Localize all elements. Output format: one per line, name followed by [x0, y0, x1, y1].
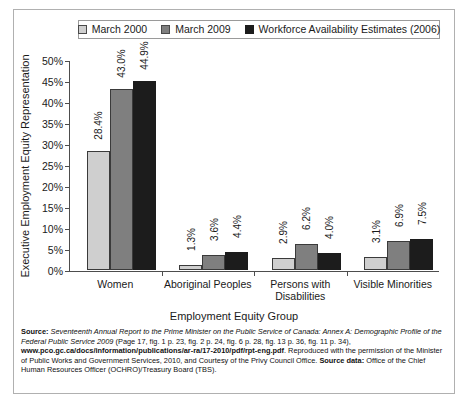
- x-category-label: Persons with Disabilities: [254, 278, 347, 302]
- bar[interactable]: [202, 255, 225, 270]
- bar[interactable]: [133, 81, 156, 270]
- bar-group: 3.1%6.9%7.5%: [364, 60, 433, 270]
- x-tick-mark: [162, 271, 163, 276]
- bar-item: 6.2%: [295, 60, 318, 270]
- y-tick-mark: [65, 82, 69, 83]
- bar[interactable]: [295, 244, 318, 270]
- bar-group: 1.3%3.6%4.4%: [179, 60, 248, 270]
- bar[interactable]: [110, 89, 133, 270]
- source-pages: (Page 17, fig. 1 p. 23, fig. 2 p. 24, fi…: [113, 337, 350, 346]
- legend-label: March 2000: [92, 24, 147, 35]
- bar[interactable]: [272, 258, 295, 270]
- y-tick-mark: [65, 250, 69, 251]
- bar-item: 44.9%: [133, 60, 156, 270]
- bar-item: 43.0%: [110, 60, 133, 270]
- source-url[interactable]: www.pco.gc.ca/docs/information/publicati…: [21, 346, 284, 355]
- legend-item-march-2009: March 2009: [161, 24, 230, 35]
- y-axis-title: Executive Employment Equity Representati…: [18, 61, 32, 271]
- legend-swatch-icon: [78, 25, 87, 34]
- x-tick-mark: [254, 271, 255, 276]
- bar-group: 2.9%6.2%4.0%: [272, 60, 341, 270]
- bar[interactable]: [179, 265, 202, 270]
- y-tick-label: 20%: [42, 181, 63, 193]
- bar[interactable]: [364, 257, 387, 270]
- bar-item: 28.4%: [87, 60, 110, 270]
- y-tick-label: 10%: [42, 223, 63, 235]
- bar-item: 4.4%: [225, 60, 248, 270]
- y-tick-mark: [65, 145, 69, 146]
- y-tick-label: 40%: [42, 97, 63, 109]
- x-axis-title: Employment Equity Group: [14, 310, 454, 322]
- y-tick-mark: [65, 208, 69, 209]
- bar-value-label: 1.3%: [185, 228, 196, 251]
- bar-item: 2.9%: [272, 60, 295, 270]
- bar-value-label: 3.6%: [208, 218, 219, 241]
- chart-figure: March 2000 March 2009 Workforce Availabi…: [13, 9, 455, 394]
- legend-swatch-icon: [161, 25, 170, 34]
- y-axis-line: [69, 61, 70, 272]
- y-tick-mark: [65, 124, 69, 125]
- bar-item: 7.5%: [410, 60, 433, 270]
- y-tick-label: 0%: [48, 265, 63, 277]
- bar[interactable]: [387, 241, 410, 270]
- bar[interactable]: [318, 253, 341, 270]
- bar-value-label: 7.5%: [416, 202, 427, 225]
- bar-group: 28.4%43.0%44.9%: [87, 60, 156, 270]
- y-tick-mark: [65, 61, 69, 62]
- bar-item: 1.3%: [179, 60, 202, 270]
- x-category-label: Visible Minorities: [347, 278, 440, 290]
- bar[interactable]: [225, 252, 248, 270]
- bar-value-label: 3.1%: [370, 220, 381, 243]
- bar-value-label: 28.4%: [93, 111, 104, 139]
- bar[interactable]: [87, 151, 110, 270]
- plot-area: 0%5%10%15%20%25%30%35%40%45%50% 28.4%43.…: [69, 61, 439, 271]
- bar-value-label: 44.9%: [139, 42, 150, 70]
- bar-item: 3.1%: [364, 60, 387, 270]
- legend-label: Workforce Availability Estimates (2006): [259, 24, 441, 35]
- bar-value-label: 4.4%: [231, 215, 242, 238]
- y-tick-label: 50%: [42, 55, 63, 67]
- bar-value-label: 2.9%: [278, 221, 289, 244]
- x-tick-mark: [347, 271, 348, 276]
- bar-item: 4.0%: [318, 60, 341, 270]
- bar[interactable]: [410, 239, 433, 271]
- bar-item: 6.9%: [387, 60, 410, 270]
- bar-value-label: 43.0%: [116, 50, 127, 78]
- y-tick-mark: [65, 166, 69, 167]
- bar-value-label: 6.2%: [301, 207, 312, 230]
- bar-item: 3.6%: [202, 60, 225, 270]
- bar-value-label: 6.9%: [393, 204, 404, 227]
- legend-swatch-icon: [245, 25, 254, 34]
- source-data-label: Source data:: [319, 356, 364, 365]
- source-label: Source:: [21, 327, 49, 336]
- y-tick-mark: [65, 103, 69, 104]
- bar-value-label: 4.0%: [324, 216, 335, 239]
- legend-label: March 2009: [175, 24, 230, 35]
- y-tick-label: 15%: [42, 202, 63, 214]
- y-tick-mark: [65, 187, 69, 188]
- y-tick-label: 35%: [42, 118, 63, 130]
- chart-legend: March 2000 March 2009 Workforce Availabi…: [78, 20, 440, 39]
- x-category-label: Aboriginal Peoples: [162, 278, 255, 290]
- y-tick-label: 5%: [48, 244, 63, 256]
- x-category-label: Women: [69, 278, 162, 290]
- source-footnote: Source: Seventeenth Annual Report to the…: [21, 327, 447, 375]
- y-tick-label: 25%: [42, 160, 63, 172]
- legend-item-march-2000: March 2000: [78, 24, 147, 35]
- legend-item-workforce-availability: Workforce Availability Estimates (2006): [245, 24, 441, 35]
- y-tick-label: 30%: [42, 139, 63, 151]
- y-tick-label: 45%: [42, 76, 63, 88]
- y-tick-mark: [65, 271, 69, 272]
- y-tick-mark: [65, 229, 69, 230]
